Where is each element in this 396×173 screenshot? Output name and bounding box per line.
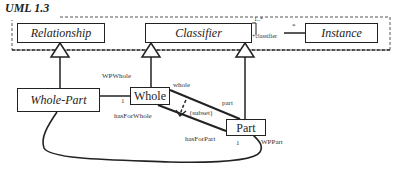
class-whole-part-label: Whole-Part: [31, 94, 87, 106]
whole-role-label: whole: [173, 82, 190, 89]
class-classifier-label: Classifier: [175, 27, 222, 39]
class-relationship-label: Relationship: [31, 27, 92, 39]
class-whole-label: Whole: [134, 90, 166, 102]
whole-multiplicity: 1: [121, 98, 125, 105]
classifier-multiplicity: 1..*: [254, 16, 263, 22]
instance-multiplicity: *: [292, 23, 296, 30]
has-for-part-label: hasForPart: [185, 136, 215, 143]
has-for-whole-label: hasForWhole: [114, 113, 152, 120]
wpwhole-label: WPWhole: [102, 73, 131, 80]
wppart-label: WPPart: [261, 139, 283, 146]
class-relationship[interactable]: Relationship: [17, 23, 105, 43]
class-part-label: Part: [236, 122, 255, 134]
class-part[interactable]: Part: [226, 119, 266, 136]
diagram-title: UML 1.3: [5, 2, 49, 14]
class-whole[interactable]: Whole: [130, 87, 170, 105]
class-whole-part[interactable]: Whole-Part: [17, 88, 100, 112]
class-instance[interactable]: Instance: [305, 23, 378, 43]
part-role-label: part: [222, 100, 233, 107]
classifier-role: +classifier: [252, 33, 277, 39]
part-multiplicity: 1: [236, 140, 240, 147]
subset-constraint: {subset}: [189, 110, 213, 117]
class-classifier[interactable]: Classifier: [145, 23, 252, 43]
class-instance-label: Instance: [321, 27, 362, 39]
